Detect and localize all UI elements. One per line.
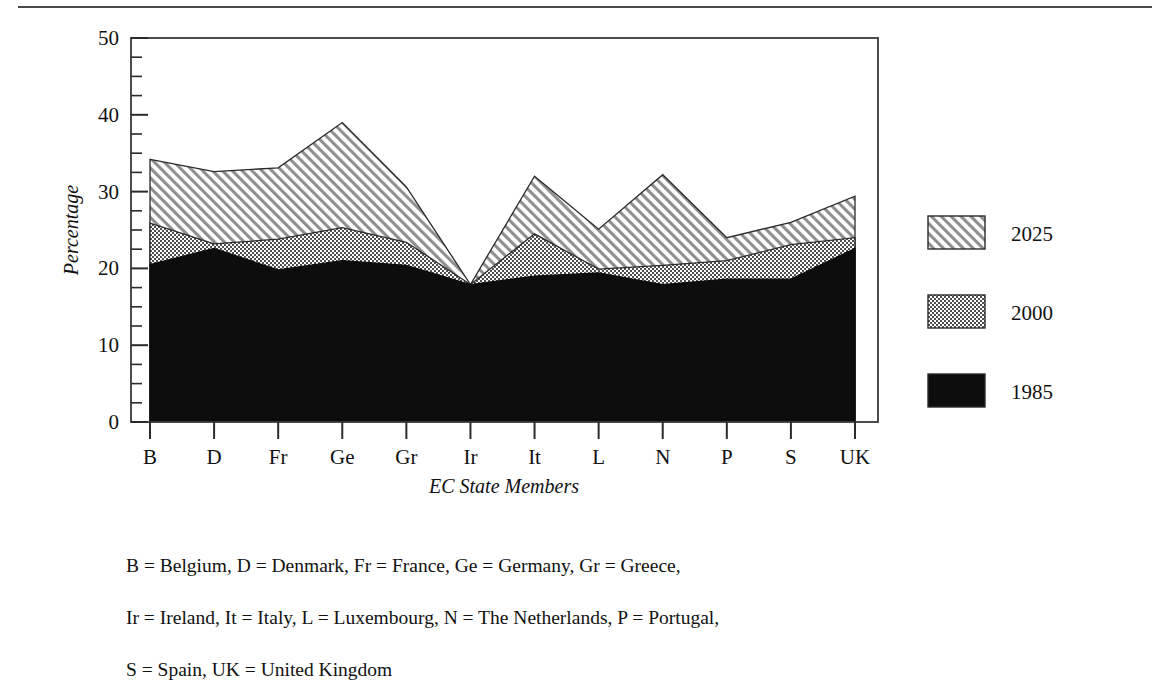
y-tick-label: 40 bbox=[98, 103, 119, 127]
x-tick-label: Gr bbox=[395, 445, 417, 469]
legend-swatch-1985[interactable] bbox=[928, 374, 985, 407]
x-axis-tick-labels: BDFrGeGrIrItLNPSUK bbox=[143, 445, 870, 469]
x-tick-label: L bbox=[592, 445, 605, 469]
svg-text:EC State Members: EC State Members bbox=[428, 475, 579, 497]
y-tick-label: 50 bbox=[98, 26, 119, 50]
legend-swatch-2025[interactable] bbox=[928, 216, 985, 249]
x-tick-label: B bbox=[143, 445, 157, 469]
y-axis-title: Percentage bbox=[60, 185, 83, 276]
plot-area bbox=[150, 122, 855, 422]
legend-label-2025: 2025 bbox=[1011, 222, 1053, 246]
y-axis-ticks bbox=[131, 38, 148, 422]
x-tick-label: P bbox=[721, 445, 733, 469]
legend-label-2000: 2000 bbox=[1011, 301, 1053, 325]
y-tick-label: 0 bbox=[109, 410, 120, 434]
x-tick-label: Fr bbox=[269, 445, 288, 469]
caption-line-2: Ir = Ireland, It = Italy, L = Luxembourg… bbox=[126, 605, 926, 631]
caption-line-1: B = Belgium, D = Denmark, Fr = France, G… bbox=[126, 553, 926, 579]
y-tick-label: 10 bbox=[98, 333, 119, 357]
x-tick-label: It bbox=[528, 445, 541, 469]
legend-abbreviation-caption: B = Belgium, D = Denmark, Fr = France, G… bbox=[126, 527, 926, 684]
y-tick-label: 30 bbox=[98, 180, 119, 204]
x-tick-label: S bbox=[785, 445, 797, 469]
x-tick-label: Ir bbox=[463, 445, 477, 469]
legend-label-1985: 1985 bbox=[1011, 380, 1053, 404]
x-axis-ticks bbox=[150, 422, 855, 439]
svg-text:Percentage: Percentage bbox=[60, 185, 83, 276]
y-axis-tick-labels: 01020304050 bbox=[98, 26, 119, 434]
x-tick-label: N bbox=[655, 445, 670, 469]
x-tick-label: D bbox=[207, 445, 222, 469]
x-tick-label: Ge bbox=[330, 445, 355, 469]
legend: 202520001985 bbox=[928, 216, 1053, 407]
legend-swatch-2000[interactable] bbox=[928, 295, 985, 328]
y-tick-label: 20 bbox=[98, 256, 119, 280]
caption-line-3: S = Spain, UK = United Kingdom bbox=[126, 657, 926, 683]
x-axis-title: EC State Members bbox=[428, 475, 579, 497]
x-tick-label: UK bbox=[840, 445, 870, 469]
